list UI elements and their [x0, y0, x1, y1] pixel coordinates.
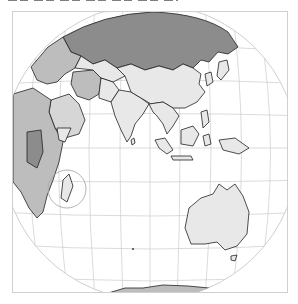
orthographic-map	[13, 12, 287, 292]
map-frame	[12, 11, 288, 293]
caption-cropped	[8, 0, 178, 4]
island-marker	[132, 248, 134, 250]
region-java	[171, 156, 193, 160]
